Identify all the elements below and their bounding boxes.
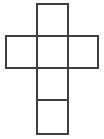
cube-net-svg — [0, 0, 104, 139]
net-square-middle-center — [37, 36, 68, 68]
net-square-middle-left — [6, 36, 37, 68]
net-square-middle-right — [68, 36, 98, 68]
net-square-bottom — [37, 100, 68, 134]
cube-net-figure — [0, 0, 104, 139]
net-square-lower — [37, 68, 68, 100]
net-square-top — [37, 4, 68, 36]
